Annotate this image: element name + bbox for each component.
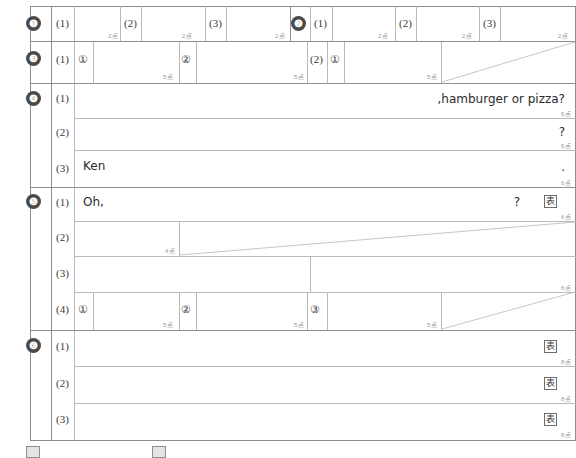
divider-5-4-b: [179, 293, 180, 330]
sub-label-3-1: (1): [56, 54, 69, 65]
sub-label-6-3: (3): [56, 414, 69, 425]
divider-1-a: [120, 6, 121, 41]
divider-3-e: [327, 42, 328, 83]
answer-cell-1-3[interactable]: [227, 7, 290, 40]
answer-text-4-2: ?: [275, 126, 565, 138]
category-box-5-1: 表: [544, 195, 557, 208]
points-3-1-2: 5点: [294, 74, 304, 80]
points-6-1: 8点: [561, 359, 571, 365]
divider-5-4-d: [307, 293, 308, 330]
category-box-6-2: 表: [544, 377, 557, 390]
points-1-1: 2点: [108, 33, 118, 39]
item-mark-5-4-3: ③: [310, 304, 320, 315]
points-4-2: 6点: [561, 143, 571, 149]
answer-cell-5-4-3[interactable]: [328, 293, 441, 330]
answer-text-4-3-right: .: [275, 161, 565, 173]
points-4-3: 6点: [561, 180, 571, 186]
divider-2-a: [310, 6, 311, 41]
divider-5-2-a: [179, 222, 180, 256]
sub-label-5-4: (4): [56, 304, 69, 315]
points-1-3-left: 2点: [182, 33, 192, 39]
frame-bottom-line: [30, 440, 576, 441]
answer-text-4-1: ,hamburger or pizza?: [275, 93, 565, 105]
question-badge-2: ❷: [291, 16, 306, 31]
question-badge-1: ❶: [26, 16, 41, 31]
legend-box-2: [152, 446, 166, 458]
sub-label-1-3: (3): [209, 18, 222, 29]
item-mark-5-4-1: ①: [78, 304, 88, 315]
sub-label-6-2: (2): [56, 378, 69, 389]
points-2-3: 2点: [558, 33, 568, 39]
question-badge-5: ❺: [26, 194, 41, 209]
divider-5-3-a: [310, 257, 311, 292]
item-mark-3-1-2: ②: [181, 54, 191, 65]
points-4-1: 6点: [561, 111, 571, 117]
points-5-4-2: 5点: [294, 322, 304, 328]
points-5-1: 6点: [561, 214, 571, 220]
answer-cell-6-2[interactable]: [75, 367, 575, 403]
question-badge-3: ❸: [26, 51, 41, 66]
answer-cell-5-3[interactable]: [75, 257, 575, 292]
sub-label-5-1: (1): [56, 197, 69, 208]
sub-label-1-1: (1): [56, 18, 69, 29]
unused-cell-5-4: [442, 293, 575, 330]
sub-label-2-2: (2): [399, 18, 412, 29]
answer-cell-6-3[interactable]: [75, 404, 575, 440]
points-2-1: 2点: [378, 33, 388, 39]
item-mark-5-4-2: ②: [181, 304, 191, 315]
answer-cell-3-1-2[interactable]: [197, 43, 301, 82]
sub-label-1-2: (2): [124, 18, 137, 29]
divider-2-e: [479, 6, 480, 41]
frame-left-line: [30, 6, 31, 440]
row1-bottom-line: [30, 41, 576, 42]
divider-1-c: [205, 6, 206, 41]
points-5-4-3: 5点: [427, 322, 437, 328]
legend-box-1: [26, 446, 40, 458]
divider-3-b: [179, 42, 180, 83]
sub-label-2-1: (1): [314, 18, 327, 29]
sub-label-2-3: (3): [483, 18, 496, 29]
sub-label-6-1: (1): [56, 341, 69, 352]
divider-3-d: [307, 42, 308, 83]
category-box-6-3: 表: [544, 413, 557, 426]
answer-text-4-3-left: Ken: [83, 160, 105, 172]
points-2-2: 2点: [462, 33, 472, 39]
sub-label-4-1: (1): [56, 93, 69, 104]
answer-cell-5-4-2[interactable]: [197, 293, 301, 330]
sub-label-3-2: (2): [310, 54, 323, 65]
unused-cell-3: [442, 43, 575, 82]
answer-cell-1-2[interactable]: [142, 7, 206, 40]
answer-text-5-1-left: Oh,: [83, 196, 104, 208]
points-6-2: 8点: [561, 396, 571, 402]
points-5-2: 4点: [165, 248, 175, 254]
qnum-column-divider: [51, 6, 52, 440]
points-6-3: 8点: [561, 432, 571, 438]
row2-bottom-line: [30, 83, 576, 84]
answer-cell-6-1[interactable]: [75, 331, 575, 366]
answer-text-5-1-right: ?: [400, 196, 520, 208]
sub-label-4-3: (3): [56, 163, 69, 174]
sub-label-4-2: (2): [56, 127, 69, 138]
item-mark-3-2-1: ①: [330, 54, 340, 65]
answer-cell-5-2[interactable]: [75, 222, 575, 256]
item-mark-3-1-1: ①: [78, 54, 88, 65]
sub-label-5-2: (2): [56, 232, 69, 243]
points-5-3: 6点: [561, 285, 571, 291]
divider-2-c: [395, 6, 396, 41]
sub-label-5-3: (3): [56, 268, 69, 279]
question-badge-4: ❹: [26, 91, 41, 106]
points-3-1-1: 5点: [163, 74, 173, 80]
points-5-4-1: 5点: [163, 322, 173, 328]
points-3-2-1: 5点: [427, 74, 437, 80]
category-box-6-1: 表: [544, 340, 557, 353]
question-badge-6: ❻: [26, 338, 41, 353]
